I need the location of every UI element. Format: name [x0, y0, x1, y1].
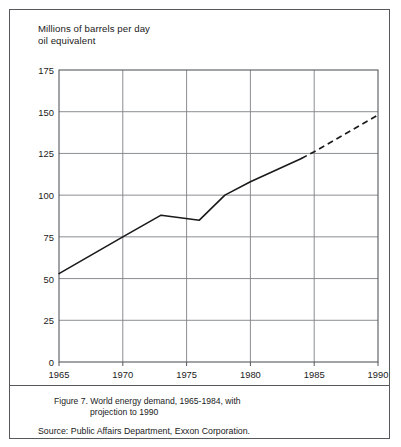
y-tick-label: 150	[22, 106, 54, 117]
x-tick-label: 1985	[304, 369, 325, 380]
y-tick-label: 100	[22, 190, 54, 201]
gridlines	[59, 70, 378, 362]
y-tick-label: 25	[22, 315, 54, 326]
plot-area: 0255075100125150175 19651970197519801985…	[10, 10, 389, 386]
y-tick-label: 50	[22, 273, 54, 284]
y-tick-label: 75	[22, 231, 54, 242]
figure-caption-line1: World energy demand, 1965-1984, with	[90, 396, 240, 406]
x-tick-label: 1970	[112, 369, 133, 380]
figure-frame: Millions of barrels per day oil equivale…	[9, 9, 390, 439]
series-historical-line	[59, 158, 301, 273]
x-tick-label: 1975	[176, 369, 197, 380]
line-chart-svg	[10, 10, 389, 386]
y-tick-label: 0	[22, 357, 54, 368]
x-tick-label: 1990	[368, 369, 389, 380]
caption-block: Figure 7. World energy demand, 1965-1984…	[10, 386, 389, 438]
source-label: Source:	[38, 426, 68, 436]
y-tick-label: 175	[22, 65, 54, 76]
series-projection-line	[301, 115, 378, 158]
x-tick-marks	[59, 362, 378, 366]
chart-panel: Millions of barrels per day oil equivale…	[10, 10, 389, 386]
figure-caption-line2: projection to 1990	[54, 407, 241, 418]
y-tick-label: 125	[22, 148, 54, 159]
figure-caption-label: Figure 7.	[54, 396, 88, 406]
x-tick-label: 1965	[49, 369, 70, 380]
source-text: Public Affairs Department, Exxon Corpora…	[71, 426, 250, 436]
x-tick-label: 1980	[240, 369, 261, 380]
source-note: Source: Public Affairs Department, Exxon…	[38, 426, 250, 436]
figure-caption: Figure 7. World energy demand, 1965-1984…	[54, 396, 241, 419]
plot-frame-border	[59, 70, 378, 362]
